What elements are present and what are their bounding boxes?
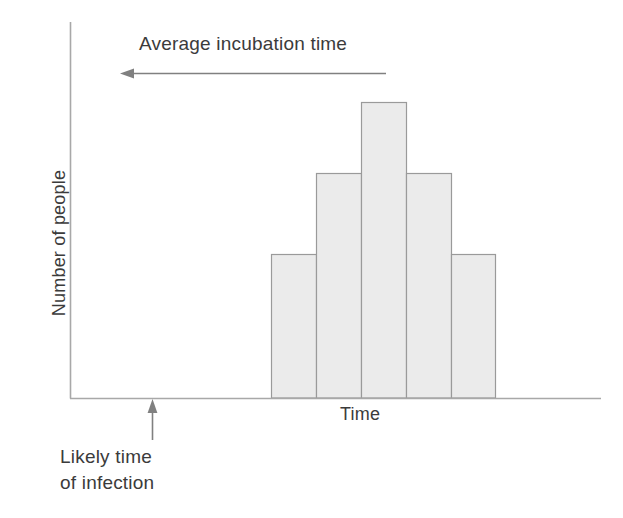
- bar-2: [317, 174, 362, 399]
- bar-3: [362, 103, 407, 399]
- likely-time-line-1: Likely time: [60, 446, 152, 467]
- likely-time-of-infection-label: Likely timeof infection: [60, 444, 250, 496]
- chart-canvas: [0, 0, 623, 518]
- x-axis-label: Time: [340, 404, 380, 425]
- bar-series: [272, 103, 496, 399]
- bar-4: [407, 174, 452, 399]
- y-axis-label: Number of people: [49, 143, 70, 343]
- bar-5: [452, 255, 496, 399]
- incubation-arrow-icon: [120, 69, 386, 79]
- incubation-time-label: Average incubation time: [139, 33, 347, 55]
- likely-time-line-2: of infection: [60, 470, 250, 496]
- incubation-time-histogram: Average incubation time Time Number of p…: [0, 0, 623, 518]
- infection-arrow-icon: [148, 399, 158, 440]
- bar-1: [272, 255, 317, 399]
